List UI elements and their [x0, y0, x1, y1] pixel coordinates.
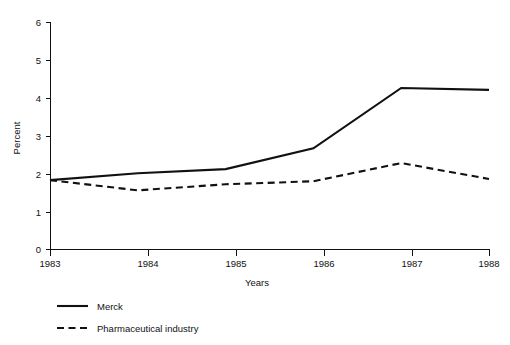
y-tick-label-6: 6 — [36, 17, 41, 28]
line-chart-svg: 6 5 4 3 2 1 0 1983 1984 1985 1986 1987 1… — [0, 0, 510, 345]
series-line-merck — [50, 88, 489, 180]
legend: Merck Pharmaceutical industry — [57, 301, 199, 334]
x-tick-labels: 1983 1984 1985 1986 1987 1988 — [39, 258, 499, 269]
x-tick-label-1983: 1983 — [39, 258, 60, 269]
series-line-pharmaceutical-industry — [50, 163, 489, 190]
y-tick-label-4: 4 — [36, 93, 41, 104]
x-tick-label-1985: 1985 — [225, 258, 246, 269]
series-group — [50, 88, 489, 190]
y-tick-label-1: 1 — [36, 207, 41, 218]
chart-figure: 6 5 4 3 2 1 0 1983 1984 1985 1986 1987 1… — [0, 0, 510, 345]
y-tick-label-0: 0 — [36, 244, 41, 255]
x-tick-label-1987: 1987 — [401, 258, 422, 269]
y-axis-title: Percent — [11, 121, 22, 154]
x-tick-label-1988: 1988 — [478, 258, 499, 269]
y-tick-label-3: 3 — [36, 131, 41, 142]
x-tick-label-1986: 1986 — [313, 258, 334, 269]
y-tick-label-2: 2 — [36, 169, 41, 180]
x-tick-label-1984: 1984 — [137, 258, 158, 269]
axis-lines — [51, 22, 491, 250]
axis-group — [46, 22, 491, 256]
y-tick-label-5: 5 — [36, 55, 41, 66]
x-axis-title: Years — [245, 277, 269, 288]
y-tick-labels: 6 5 4 3 2 1 0 — [36, 17, 41, 255]
legend-label-pharmaceutical-industry: Pharmaceutical industry — [97, 323, 199, 334]
legend-label-merck: Merck — [97, 301, 123, 312]
